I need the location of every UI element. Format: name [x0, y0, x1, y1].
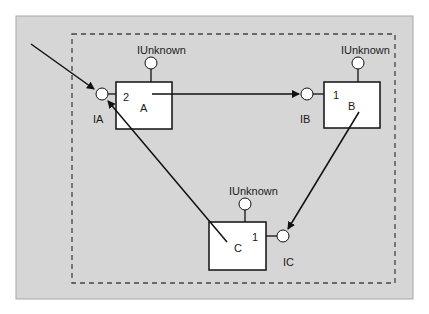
iunknown-label-b: IUnknown	[341, 44, 390, 56]
iunknown-lollipop-c-icon	[239, 198, 251, 210]
interface-label-ib: IB	[300, 113, 310, 125]
iunknown-lollipop-a-icon	[145, 57, 157, 69]
component-label-b: B	[348, 100, 355, 112]
interface-ib-icon	[301, 88, 313, 100]
interface-label-ia: IA	[93, 113, 104, 125]
port-number-c: 1	[252, 231, 258, 243]
iunknown-label-c: IUnknown	[229, 185, 278, 197]
interface-ia-icon	[96, 88, 108, 100]
component-label-c: C	[234, 242, 242, 254]
component-label-a: A	[140, 102, 148, 114]
component-diagram: IUnknown 2 A IA IUnknown 1 B IB IUnknown…	[0, 0, 429, 314]
interface-ic-icon	[277, 230, 289, 242]
iunknown-label-a: IUnknown	[137, 44, 186, 56]
port-number-b: 1	[333, 89, 339, 101]
iunknown-lollipop-b-icon	[352, 57, 364, 69]
interface-label-ic: IC	[283, 256, 294, 268]
port-number-a: 2	[123, 91, 129, 103]
